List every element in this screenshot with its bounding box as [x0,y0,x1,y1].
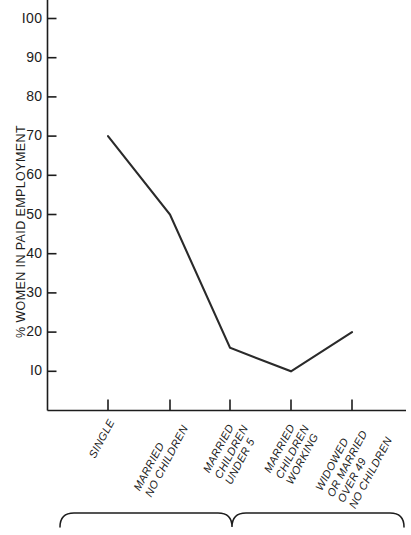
axis-lines [48,0,407,411]
y-tick-label: 60 [26,166,42,182]
category-group-brace [60,513,404,527]
y-tick-label: 20 [26,323,42,339]
y-tick-label: I0 [30,362,42,378]
data-series-line [108,136,352,371]
y-axis-ticks [48,19,57,372]
y-tick-label: 80 [26,88,42,104]
x-axis-ticks [108,400,352,411]
chart-figure: % WOMEN IN PAID EMPLOYMENT I020304050607… [0,0,411,535]
y-tick-label: 50 [26,206,42,222]
y-tick-label: 30 [26,284,42,300]
y-tick-label: 90 [26,49,42,65]
y-tick-label: 70 [26,127,42,143]
y-tick-label: I00 [22,10,43,26]
y-tick-label: 40 [26,245,42,261]
